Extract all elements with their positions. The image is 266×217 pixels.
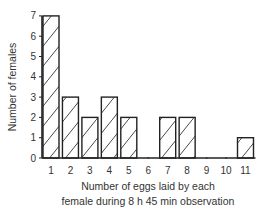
bar-2 (62, 97, 78, 158)
x-tick-label: 7 (165, 165, 171, 176)
y-axis: 01234567 (30, 10, 42, 163)
y-tick-label: 6 (30, 31, 36, 42)
bar-4 (101, 97, 117, 158)
x-axis-label-line1: Number of eggs laid by each (81, 180, 215, 192)
empty-bin-mark (225, 157, 227, 159)
y-tick-label: 0 (30, 153, 36, 164)
bar-1 (43, 16, 59, 158)
x-axis: 1234567891011 (42, 157, 256, 176)
y-tick-label: 7 (30, 10, 36, 21)
y-axis-label: Number of females (6, 43, 18, 132)
x-tick-label: 10 (220, 165, 232, 176)
x-tick-label: 11 (240, 165, 251, 176)
x-tick-label: 9 (204, 165, 210, 176)
y-tick-label: 2 (30, 112, 36, 123)
x-axis-label-line2: female during 8 h 45 min observation (62, 195, 235, 207)
y-tick-label: 4 (30, 71, 36, 82)
bar-3 (82, 117, 98, 158)
bar-5 (121, 117, 137, 158)
x-tick-label: 6 (145, 165, 151, 176)
x-tick-label: 4 (107, 165, 113, 176)
histogram-chart: 01234567 1234567891011 Number of females… (0, 0, 266, 217)
y-tick-label: 3 (30, 92, 36, 103)
y-tick-label: 1 (30, 132, 36, 143)
bars-group (43, 16, 254, 158)
x-tick-label: 1 (48, 165, 54, 176)
empty-bin-mark (206, 157, 208, 159)
x-tick-label: 3 (87, 165, 93, 176)
bar-8 (179, 117, 195, 158)
x-tick-label: 8 (184, 165, 190, 176)
x-tick-label: 2 (68, 165, 74, 176)
x-tick-label: 5 (126, 165, 132, 176)
bar-11 (238, 138, 254, 158)
empty-bin-mark (147, 157, 149, 159)
y-tick-label: 5 (30, 51, 36, 62)
bar-7 (160, 117, 176, 158)
